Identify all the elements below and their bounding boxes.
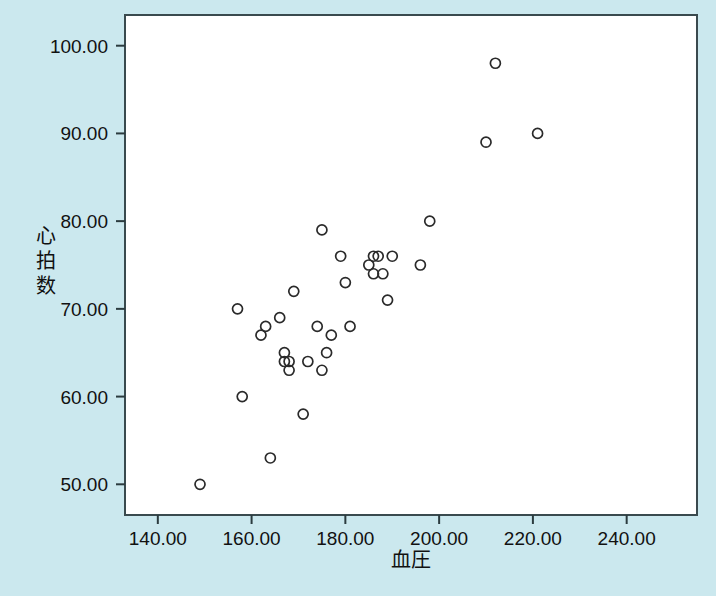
y-tick-label: 60.00	[60, 387, 108, 408]
y-axis-title-char: 拍	[36, 250, 56, 272]
x-axis-title: 血圧	[391, 549, 431, 571]
y-tick-label: 80.00	[60, 211, 108, 232]
y-tick-label: 100.00	[50, 36, 108, 57]
y-tick-label: 50.00	[60, 474, 108, 495]
scatter-plot-figure: 140.00160.00180.00200.00220.00240.00 50.…	[0, 0, 716, 596]
x-tick-label: 140.00	[129, 528, 187, 549]
y-tick-label: 70.00	[60, 299, 108, 320]
plot-area	[125, 15, 697, 515]
x-tick-label: 160.00	[223, 528, 281, 549]
y-axis-title-char: 心	[36, 225, 56, 247]
y-axis-title: 心拍数	[36, 225, 56, 297]
x-tick-label: 180.00	[316, 528, 374, 549]
y-axis-title-char: 数	[36, 275, 56, 297]
x-tick-label: 220.00	[504, 528, 562, 549]
x-tick-label: 200.00	[410, 528, 468, 549]
x-tick-label: 240.00	[598, 528, 656, 549]
y-tick-label: 90.00	[60, 123, 108, 144]
